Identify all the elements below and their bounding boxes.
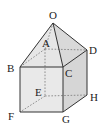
label-d: D [89, 44, 97, 56]
label-c: C [65, 67, 72, 79]
figure-canvas: O A D B C E H F G [0, 0, 109, 129]
label-h: H [90, 91, 98, 103]
label-f: F [8, 110, 14, 122]
label-b: B [7, 62, 14, 74]
label-g: G [62, 113, 70, 125]
label-o: O [49, 9, 57, 21]
label-e: E [35, 86, 42, 98]
label-a: A [42, 37, 50, 49]
